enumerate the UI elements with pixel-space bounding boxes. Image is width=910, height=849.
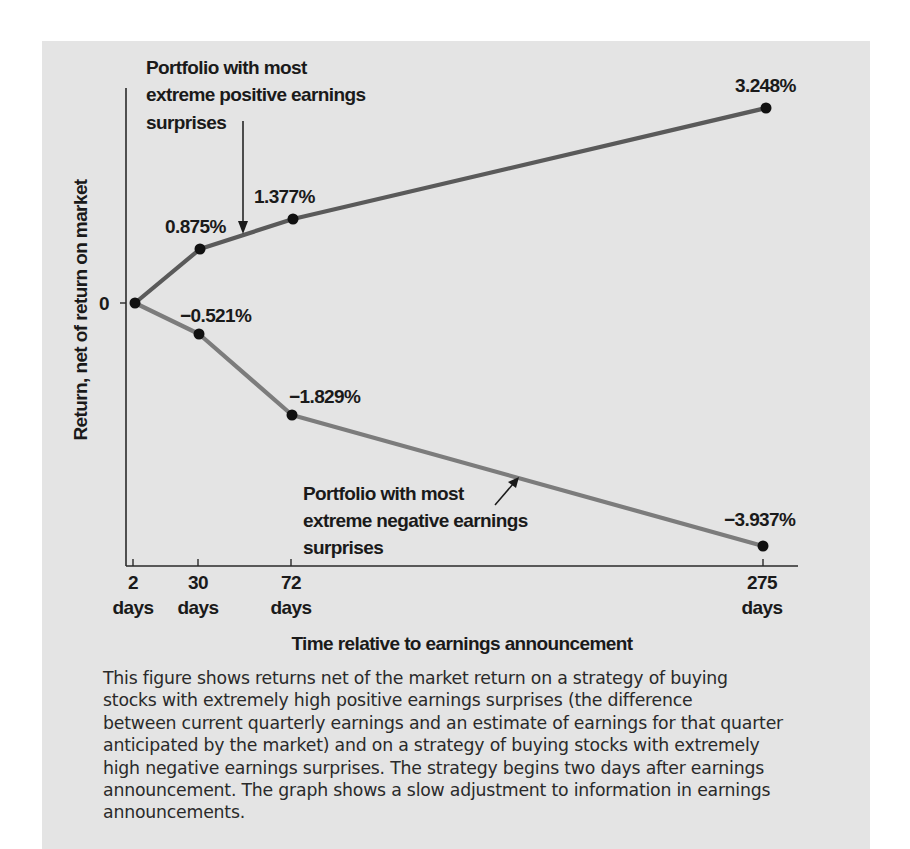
annotation-line: extreme positive earnings <box>146 84 365 105</box>
x-tick-label-unit: days <box>113 597 154 618</box>
origin-marker <box>130 298 141 309</box>
negative-marker-72 <box>287 410 298 421</box>
x-axis-title: Time relative to earnings announcement <box>291 633 633 654</box>
annotation-line: Portfolio with most <box>146 57 308 78</box>
x-tick-label-num: 275 <box>747 572 778 593</box>
x-tick-labels: 2 days 30 days 72 days 275 days <box>113 572 783 618</box>
positive-marker-72 <box>288 214 299 225</box>
y-axis-title: Return, net of return on market <box>70 178 91 440</box>
x-tick-label-unit: days <box>742 597 783 618</box>
negative-marker-275 <box>758 541 769 552</box>
annotation-line: surprises <box>303 537 383 558</box>
x-tick-label-num: 72 <box>281 572 301 593</box>
figure-caption: This figure shows returns net of the mar… <box>103 667 863 824</box>
x-tick-label-num: 30 <box>188 572 208 593</box>
caption-line: anticipated by the market) and on a stra… <box>103 734 863 756</box>
y-tick-label-zero: 0 <box>99 293 109 314</box>
annotation-line: extreme negative earnings <box>303 510 528 531</box>
positive-marker-30 <box>195 244 206 255</box>
value-label-neg-30: −0.521% <box>180 305 252 326</box>
value-label-pos-30: 0.875% <box>165 216 227 237</box>
annotation-line: Portfolio with most <box>303 483 465 504</box>
caption-line: announcements. <box>103 801 863 823</box>
value-label-pos-275: 3.248% <box>735 75 797 96</box>
negative-annotation-arrow-icon <box>495 477 519 505</box>
x-tick-label-unit: days <box>271 597 312 618</box>
x-tick-label-num: 2 <box>128 572 138 593</box>
positive-series-annotation: Portfolio with most extreme positive ear… <box>146 57 365 133</box>
annotation-line: surprises <box>146 112 226 133</box>
positive-annotation-arrow-icon <box>238 121 248 234</box>
caption-line: This figure shows returns net of the mar… <box>103 667 863 689</box>
value-label-neg-72: −1.829% <box>289 386 361 407</box>
value-label-neg-275: −3.937% <box>724 509 796 530</box>
caption-line: stocks with extremely high positive earn… <box>103 689 863 711</box>
value-label-pos-72: 1.377% <box>254 186 316 207</box>
negative-series-annotation: Portfolio with most extreme negative ear… <box>303 483 528 558</box>
caption-line: announcement. The graph shows a slow adj… <box>103 779 863 801</box>
caption-line: between current quarterly earnings and a… <box>103 712 863 734</box>
x-tick-label-unit: days <box>178 597 219 618</box>
positive-series-line <box>135 108 766 303</box>
positive-marker-275 <box>761 103 772 114</box>
caption-line: high negative earnings surprises. The st… <box>103 757 863 779</box>
negative-marker-30 <box>194 329 205 340</box>
